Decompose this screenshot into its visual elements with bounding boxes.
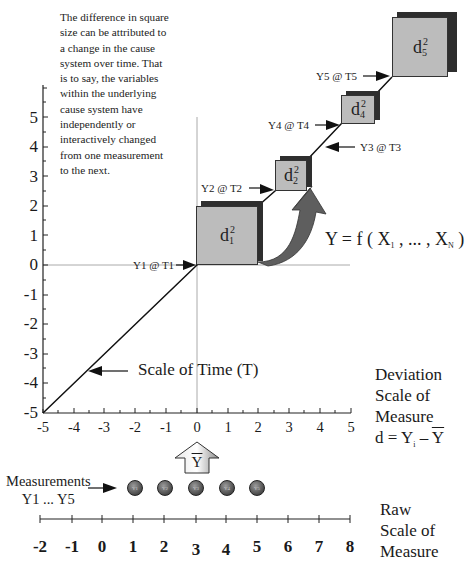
raw-tick-label: 0 bbox=[90, 538, 114, 555]
y-tick-label: -2 bbox=[8, 315, 38, 332]
measurement-circle-y2: Y2 bbox=[157, 480, 173, 496]
raw-tick-label: -2 bbox=[28, 538, 52, 555]
y-tick-label: 1 bbox=[8, 227, 38, 244]
x-tick-label: 1 bbox=[216, 420, 240, 435]
square-d2: d22 bbox=[275, 160, 307, 191]
measurement-circle-y4: Y4 bbox=[219, 480, 235, 496]
y-tick-label: 3 bbox=[8, 168, 38, 185]
square-d1: d21 bbox=[196, 206, 258, 265]
y-tick-label: 4 bbox=[8, 138, 38, 155]
square-d1-label: d21 bbox=[220, 221, 234, 250]
x-tick-label: 5 bbox=[339, 420, 363, 435]
y-tick-label: 5 bbox=[8, 109, 38, 126]
cause-system-formula: Y = f ( X1 , ... , XN ) bbox=[325, 229, 464, 256]
y-tick-label: -4 bbox=[8, 374, 38, 391]
point-label-y4: Y4 @ T4 bbox=[268, 119, 309, 131]
raw-tick-label: 7 bbox=[307, 538, 331, 555]
square-d5: d25 bbox=[392, 17, 448, 77]
point-label-y5: Y5 @ T5 bbox=[316, 70, 357, 82]
raw-tick-label: 1 bbox=[121, 538, 145, 555]
raw-tick-label: 2 bbox=[152, 538, 176, 555]
y3-arrow-icon bbox=[325, 142, 339, 152]
point-label-y2: Y2 @ T2 bbox=[201, 182, 242, 194]
x-tick-label: 4 bbox=[308, 420, 332, 435]
growth-curved-arrow-icon bbox=[258, 188, 326, 266]
raw-tick-label: 4 bbox=[214, 541, 238, 558]
deviation-scale-label: Deviation Scale of Measure d = Yi – Y bbox=[375, 364, 444, 455]
annotation-text: The difference in square size can be att… bbox=[60, 10, 170, 178]
y-tick-label: 2 bbox=[8, 197, 38, 214]
square-d5-label: d25 bbox=[413, 33, 427, 62]
y4-arrow-icon bbox=[326, 120, 340, 130]
raw-tick-label: 6 bbox=[276, 538, 300, 555]
y-tick-label: -3 bbox=[8, 345, 38, 362]
measurement-circle-y5: Y5 bbox=[249, 480, 265, 496]
x-tick-label: -4 bbox=[62, 420, 86, 435]
raw-tick-label: 8 bbox=[338, 538, 362, 555]
x-tick-label: -3 bbox=[92, 420, 116, 435]
time-scale-label: Scale of Time (T) bbox=[138, 360, 258, 380]
x-tick-label: 0 bbox=[185, 420, 209, 435]
raw-tick-label: 3 bbox=[184, 541, 208, 558]
square-d4: d24 bbox=[341, 95, 375, 124]
y-tick-label: -1 bbox=[8, 286, 38, 303]
mean-label: Y bbox=[188, 454, 206, 470]
x-tick-label: -5 bbox=[31, 420, 55, 435]
raw-scale-label: Raw Scale of Measure bbox=[380, 499, 439, 562]
measurement-circle-y1: Y1 bbox=[127, 480, 143, 496]
y5-arrow-icon bbox=[376, 71, 390, 81]
measurement-circle-y3: Y3 bbox=[188, 480, 204, 496]
point-label-y1: Y1 @ T1 bbox=[133, 259, 174, 271]
x-tick-label: -2 bbox=[123, 420, 147, 435]
raw-tick-label: -1 bbox=[60, 538, 84, 555]
x-tick-label: -1 bbox=[154, 420, 178, 435]
y-tick-label: 0 bbox=[8, 256, 38, 273]
raw-tick-label: 5 bbox=[245, 538, 269, 555]
measurements-arrow-icon bbox=[103, 483, 117, 493]
x-tick-label: 2 bbox=[246, 420, 270, 435]
measurements-label: Measurements Y1 ... Y5 bbox=[6, 472, 91, 508]
y2-arrow-icon bbox=[260, 184, 274, 194]
x-tick-label: 3 bbox=[277, 420, 301, 435]
deviation-equation: d = Yi – Y bbox=[375, 427, 444, 455]
point-label-y3: Y3 @ T3 bbox=[360, 141, 401, 153]
square-d2-label: d22 bbox=[284, 161, 298, 190]
square-d4-label: d24 bbox=[351, 95, 365, 124]
y-tick-label: -5 bbox=[8, 404, 38, 421]
